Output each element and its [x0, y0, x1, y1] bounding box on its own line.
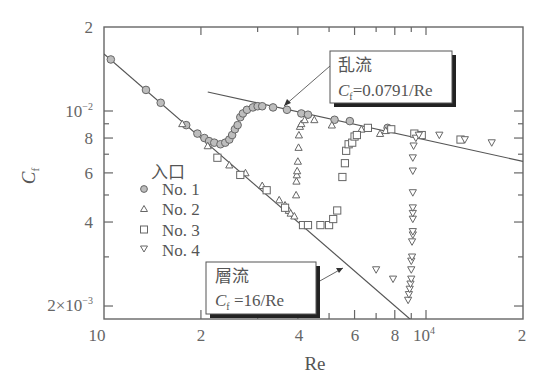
data-point — [341, 160, 348, 167]
arrowhead-icon — [284, 99, 291, 106]
triangle-down-marker-icon — [141, 246, 148, 252]
data-point — [388, 126, 395, 133]
x-tick-8000: 8 — [391, 326, 400, 345]
data-point — [157, 99, 165, 107]
data-point — [214, 154, 221, 161]
svg-text:乱流: 乱流 — [338, 56, 372, 75]
friction-factor-chart: 10 2 4 6 8 104 2 2 10−2 8 6 4 2×10−3 Re … — [0, 0, 548, 386]
arrowhead-icon — [336, 268, 343, 273]
data-point — [295, 144, 302, 150]
x-tick-1000: 10 — [89, 326, 106, 345]
data-point — [334, 207, 341, 214]
data-point — [194, 130, 202, 138]
data-point — [283, 106, 291, 114]
turbulent-pointer — [284, 66, 330, 106]
data-point — [304, 221, 311, 228]
data-point — [295, 131, 302, 137]
data-point — [405, 297, 412, 303]
data-point — [311, 116, 318, 122]
data-point — [364, 124, 371, 131]
x-tick-20000: 2 — [518, 326, 527, 345]
data-point — [142, 86, 150, 94]
x-tick-2000: 2 — [197, 326, 206, 345]
legend-item-no4: No. 4 — [141, 241, 201, 260]
y-tick-0.02: 2 — [85, 18, 94, 37]
data-point — [330, 215, 337, 222]
svg-text:No. 4: No. 4 — [162, 241, 200, 260]
y-tick-0.008: 8 — [85, 129, 94, 148]
data-point — [237, 171, 244, 178]
data-point — [488, 140, 495, 146]
svg-text:層流: 層流 — [215, 267, 249, 286]
data-point — [353, 131, 360, 138]
legend-item-no1: No. 1 — [141, 180, 200, 199]
y-tick-0.006: 6 — [85, 164, 94, 183]
data-point — [258, 102, 266, 110]
data-point — [263, 187, 270, 194]
y-axis-title: Cf — [18, 167, 41, 184]
data-point — [409, 155, 416, 161]
turbulent-annotation: 乱流 Cf=0.0791/Re — [284, 51, 456, 107]
data-point — [281, 204, 288, 211]
data-point — [317, 221, 324, 228]
data-point — [293, 178, 300, 184]
data-point — [436, 132, 443, 138]
data-point — [409, 190, 416, 196]
data-point — [409, 168, 416, 174]
svg-text:Cf: Cf — [18, 167, 41, 184]
data-point — [410, 143, 417, 149]
x-tick-10000: 104 — [413, 325, 435, 345]
y-tick-0.01: 10−2 — [65, 101, 93, 121]
x-tick-4000: 4 — [295, 326, 304, 345]
square-marker-icon — [141, 226, 148, 233]
x-tick-6000: 6 — [351, 326, 360, 345]
x-axis-title: Re — [304, 353, 325, 374]
data-point — [408, 267, 415, 273]
legend: 入口 No. 1 No. 2 No. 3 No. 4 — [141, 163, 201, 260]
data-point — [276, 196, 283, 202]
svg-text:No. 2: No. 2 — [162, 200, 200, 219]
data-point — [294, 158, 301, 164]
data-point — [346, 117, 354, 125]
y-axis-tick-labels: 2 10−2 8 6 4 2×10−3 — [47, 18, 93, 315]
data-point — [389, 276, 396, 282]
legend-item-no3: No. 3 — [141, 221, 200, 240]
data-point — [107, 56, 115, 64]
data-point — [269, 104, 277, 112]
svg-text:Cf =16/Re: Cf =16/Re — [215, 291, 284, 312]
y-tick-0.004: 4 — [85, 213, 94, 232]
data-point — [339, 173, 346, 180]
data-point — [234, 121, 242, 129]
x-axis-tick-labels: 10 2 4 6 8 104 2 — [89, 325, 527, 345]
laminar-annotation: 層流 Cf =16/Re — [206, 262, 343, 318]
circle-marker-icon — [141, 186, 148, 193]
data-point — [408, 239, 415, 245]
svg-text:No. 1: No. 1 — [162, 180, 200, 199]
svg-text:Cf=0.0791/Re: Cf=0.0791/Re — [338, 81, 433, 102]
svg-text:No. 3: No. 3 — [162, 221, 200, 240]
triangle-up-marker-icon — [141, 206, 148, 212]
data-point — [293, 191, 300, 197]
legend-item-no2: No. 2 — [141, 200, 200, 219]
y-tick-0.002: 2×10−3 — [47, 295, 93, 315]
data-point — [373, 267, 380, 273]
data-point — [294, 167, 301, 173]
